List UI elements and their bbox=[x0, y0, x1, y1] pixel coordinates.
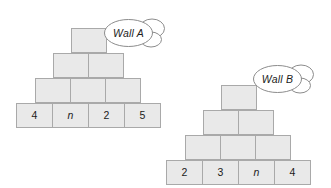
brick bbox=[105, 78, 141, 103]
brick bbox=[238, 110, 274, 135]
wall-a-label: Wall A bbox=[105, 19, 152, 47]
brick bbox=[70, 78, 106, 103]
brick-value: 4 bbox=[16, 103, 53, 128]
wall-b-label: Wall B bbox=[254, 65, 301, 93]
brick bbox=[220, 135, 256, 160]
brick-value: 5 bbox=[124, 103, 161, 128]
brick bbox=[53, 53, 89, 78]
brick-value: 3 bbox=[202, 160, 239, 185]
brick bbox=[203, 110, 239, 135]
wall-b-label-bubble: Wall B bbox=[253, 64, 315, 94]
brick-variable: n bbox=[52, 103, 89, 128]
wall-a-row-1 bbox=[71, 28, 107, 53]
brick bbox=[71, 28, 107, 53]
wall-a-row-2 bbox=[53, 53, 124, 78]
wall-a-label-bubble: Wall A bbox=[104, 18, 166, 48]
wall-b-row-4-bottom: 2 3 n 4 bbox=[166, 160, 311, 185]
brick bbox=[221, 85, 257, 110]
brick-value: 2 bbox=[166, 160, 203, 185]
brick bbox=[255, 135, 291, 160]
wall-b-row-1 bbox=[221, 85, 257, 110]
brick-variable: n bbox=[238, 160, 275, 185]
brick bbox=[185, 135, 221, 160]
wall-b-row-2 bbox=[203, 110, 274, 135]
brick bbox=[88, 53, 124, 78]
wall-a-row-4-bottom: 4 n 2 5 bbox=[16, 103, 161, 128]
wall-a-row-3 bbox=[35, 78, 141, 103]
brick-value: 4 bbox=[274, 160, 311, 185]
brick-value: 2 bbox=[88, 103, 125, 128]
wall-b-row-3 bbox=[185, 135, 291, 160]
wall-b: 2 3 n 4 bbox=[166, 85, 312, 185]
diagram-canvas: 4 n 2 5 Wall A bbox=[0, 0, 331, 188]
brick bbox=[35, 78, 71, 103]
